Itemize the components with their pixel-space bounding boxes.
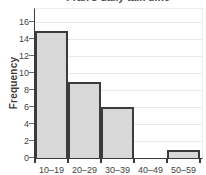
x-tick-3 [133,158,135,163]
histogram-chart: Fran's daily talk time Frequency 0246810… [0,0,206,175]
bar-30–39 [101,107,134,158]
y-tick-label-6: 6 [4,102,29,112]
x-tick-2 [100,158,102,163]
x-tick-1 [67,158,69,163]
plot-area: 024681012141610–1920–2930–3940–4950–59 [34,8,203,159]
y-tick-16 [29,21,34,22]
chart-title: Fran's daily talk time [34,0,202,3]
bar-10–19 [35,31,68,159]
y-tick-4 [29,123,34,124]
x-tick-label-10–19: 10–19 [39,165,64,175]
y-tick-2 [29,140,34,141]
y-tick-14 [29,38,34,39]
y-tick-label-2: 2 [4,136,29,146]
bar-20–29 [68,82,101,159]
y-tick-label-16: 16 [4,17,29,27]
y-tick-10 [29,72,34,73]
x-tick-5 [199,158,201,163]
y-tick-12 [29,55,34,56]
y-tick-label-12: 12 [4,51,29,61]
y-tick-0 [29,157,34,158]
x-tick-4 [166,158,168,163]
y-tick-label-8: 8 [4,85,29,95]
x-tick-0 [34,158,36,163]
y-tick-label-14: 14 [4,34,29,44]
y-tick-label-4: 4 [4,119,29,129]
x-tick-label-30–39: 30–39 [105,165,130,175]
y-tick-label-10: 10 [4,68,29,78]
bar-50–59 [167,150,200,159]
y-tick-6 [29,106,34,107]
y-tick-8 [29,89,34,90]
gridline-y-16 [35,22,202,23]
y-tick-label-0: 0 [4,153,29,163]
x-tick-label-50–59: 50–59 [171,165,196,175]
x-tick-label-40–49: 40–49 [138,165,163,175]
x-tick-label-20–29: 20–29 [72,165,97,175]
